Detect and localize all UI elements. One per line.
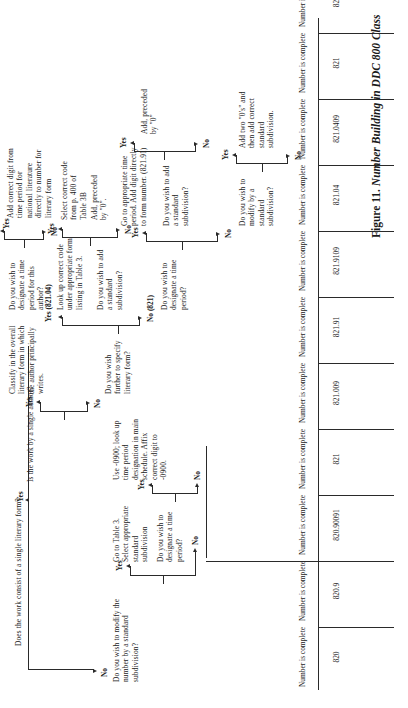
flowchart: Does the work consist of a single litera… [0,0,408,708]
root-no-leg [28,669,94,670]
a-add-preceded-0: Add, preceded by "0" [140,84,159,134]
addsub-right-stem [90,237,91,246]
root-yes-arrowhead [25,498,29,502]
outcome-status: Number is complete [298,361,307,425]
outcome-status: Number is complete [298,493,307,557]
q-add-std-sub-right: Do you wish to add a standard subdivisio… [96,246,124,310]
q-time-period-author: Do you wish to designate a time period f… [8,246,46,310]
specify-yes-arrow [58,315,62,319]
a-add-preceded-0b: Add, preceded by "0". [90,170,109,220]
left-no-label: No [191,536,200,545]
left-tp-yes-arrow [148,483,152,487]
outcome-col-sep-7 [318,231,394,232]
q-designate-time: Do you wish to designate a time period? [160,250,188,310]
outcome-col-sep-3 [318,495,394,496]
author-tp-yes-label: Yes [2,218,11,229]
outcome-number: 821.91 [332,0,341,29]
outcome-status: Number is complete [298,163,307,227]
specify-no-arrow [138,316,142,320]
outcome-status: Number is complete [298,97,307,161]
a-goto-time-period: Go to appropriate time period. Add digit… [120,140,148,226]
caption-prefix: Figure 11. [370,189,382,238]
modify2-no-arrow [286,154,290,158]
left-no-arm [195,550,196,576]
specify-no-label: No (821) [146,295,155,322]
author-tp-stem [24,239,25,248]
outcome-status: Number is complete [298,229,307,293]
addsub-right-no-label: No [124,225,133,234]
left-tp-no-label: No [193,471,202,480]
left-branch-stem [163,575,164,584]
outcome-col-sep-6 [318,297,394,298]
a-use-0900: Use -0900; look up time period designati… [112,416,168,480]
outcome-col-sep-5 [318,363,394,364]
left-tp-stem [175,493,176,502]
author-yes-label: Yes [25,396,34,407]
group-rule-1 [206,446,207,558]
outcome-status: Number is complete [298,559,307,623]
branch-divider-left [206,561,318,562]
author-yes-arm [40,402,41,412]
designate-no-arrow [216,232,220,236]
modify2-yes-arm [236,155,237,164]
a-classify-overall: Classify in the overall literary form in… [8,318,46,394]
outcome-number: 820 [332,625,341,689]
addsub-mid-stem [164,151,165,160]
designate-no-label: No [224,229,233,238]
author-stem [64,411,65,420]
outcome-col-sep-1 [318,627,394,628]
outcome-number: 821 [332,31,341,95]
left-tp-no-arrow [195,483,199,487]
caption-title: Number Building in DDC 800 Class [370,15,382,187]
outcome-col-sep-9 [318,99,394,100]
outcome-number: 821.0409 [332,97,341,161]
outcome-number: 820.9 [332,559,341,623]
addsub-right-no-arrow [116,228,120,232]
outcome-col-sep-8 [318,165,394,166]
outcome-status: Number is complete [298,625,307,689]
root-no-label: No [100,668,109,677]
designate-stem [182,241,183,250]
addsub-mid-no-label: No [202,139,211,148]
specify-yes-arm [62,317,63,326]
outcome-status: Number is complete [298,427,307,491]
specify-bracket [62,325,140,326]
a-add-two-zeros: Add two "0's" and then add correct stand… [238,90,276,148]
outcome-status: Number is complete [298,295,307,359]
designate-yes-arm [146,233,147,242]
addsub-mid-yes-label: Yes [119,137,128,148]
a-lookup-code: Look up correct code under appropriate f… [56,234,84,310]
q-specify-form: Do you wish further to specify literary … [104,334,132,394]
author-no-arrow [86,401,90,405]
author-no-label: No [93,399,102,408]
addsub-mid-yes-arm [134,143,135,152]
left-tp-yes-arm [152,485,153,494]
left-yes-arm [130,566,131,576]
modify2-stem [262,163,263,172]
outcome-number: 821 [332,427,341,491]
outcome-status: Number is complete [298,0,307,29]
q-add-std-sub-mid: Do you wish to add a standard subdivisio… [162,162,190,226]
modify2-yes-arrow [232,153,236,157]
left-yes-arrow [126,564,130,568]
outcome-number: 821.9109 [332,229,341,293]
author-yes-arrow [36,400,40,404]
a-table3-select: Go to Table 3. Select appropriate standa… [112,502,150,562]
addsub-right-yes-arm [62,229,63,238]
root-yes-label: Yes [16,491,25,502]
outcome-table-rule [318,18,319,690]
designate-yes-arrow [142,231,146,235]
outcome-col-sep-4 [318,429,394,430]
author-tp-yes-arrow [0,229,4,233]
outcome-col-sep-10 [318,33,394,34]
outcome-status: Number is complete [298,31,307,95]
addsub-mid-no-arrow [194,142,198,146]
outcome-number: 821.91 [332,295,341,359]
left-no-arrow [193,548,197,552]
specify-stem [118,325,119,334]
addsub-mid-yes-arrow [130,141,134,145]
a-add-correct-digit: Add correct digit from time period for n… [6,148,53,218]
root-no-arrow [93,669,97,673]
outcome-number: 820.90091 [332,493,341,557]
scanned-page: Does the work consist of a single litera… [0,0,408,708]
